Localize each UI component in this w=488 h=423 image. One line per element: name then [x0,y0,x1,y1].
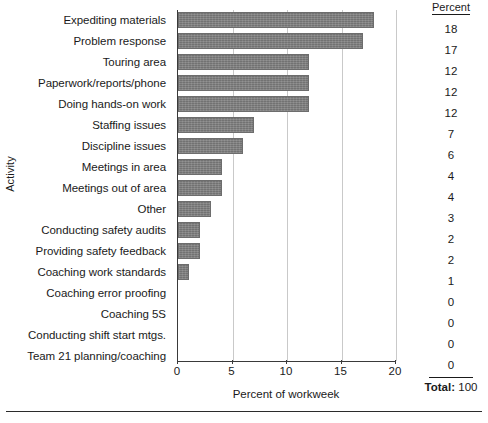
bar-row [178,157,395,178]
percent-value: 0 [424,334,478,355]
bar-row [178,241,395,262]
category-label: Touring area [14,52,172,73]
percent-value: 3 [424,208,478,229]
category-label: Discipline issues [14,136,172,157]
total-value: 100 [458,381,477,393]
percent-value: 1 [424,271,478,292]
total-divider [429,377,473,378]
percent-value: 6 [424,145,478,166]
category-label: Coaching work standards [14,262,172,283]
bar [178,201,211,217]
x-axis-title: Percent of workweek [177,388,395,400]
bar-row [178,199,395,220]
percent-value: 12 [424,61,478,82]
percent-table: Percent 1817121212764432210000 Total: 10… [424,0,478,393]
bar-row [178,10,395,31]
bar-row [178,115,395,136]
bar-row [178,136,395,157]
category-label: Paperwork/reports/phone [14,73,172,94]
x-tick-label: 15 [334,365,347,377]
category-label: Conducting shift start mtgs. [14,325,172,346]
bar-row [178,52,395,73]
bar [178,243,200,259]
gridline [396,10,397,361]
percent-value: 0 [424,355,478,376]
total-label: Total: [425,381,455,393]
percent-table-values: 1817121212764432210000 [424,19,478,376]
bar [178,12,374,28]
percent-table-header: Percent [424,0,478,14]
bar-row [178,94,395,115]
bar [178,75,309,91]
category-label: Other [14,199,172,220]
x-tick-mark [286,360,287,364]
category-label-column: Expediting materialsProblem responseTour… [14,10,172,367]
category-label: Staffing issues [14,115,172,136]
bar [178,159,222,175]
percent-value: 0 [424,313,478,334]
x-tick-mark [395,360,396,364]
category-label: Team 21 planning/coaching [14,346,172,367]
percent-header-label: Percent [432,1,470,15]
bar [178,117,254,133]
x-tick-mark [341,360,342,364]
bar-row [178,220,395,241]
bar-row [178,31,395,52]
category-label: Meetings in area [14,157,172,178]
percent-value: 2 [424,250,478,271]
category-label: Expediting materials [14,10,172,31]
bottom-divider [6,411,482,412]
x-tick-label: 10 [280,365,293,377]
x-tick-label: 20 [389,365,402,377]
percent-value: 17 [424,40,478,61]
total-row: Total: 100 [424,381,478,393]
plot-area [177,10,395,362]
bar-row [178,262,395,283]
x-tick-label: 0 [174,365,180,377]
x-tick-mark [177,360,178,364]
bar-row [178,73,395,94]
category-label: Coaching error proofing [14,283,172,304]
category-label: Problem response [14,31,172,52]
bar-row [178,304,395,325]
x-tick-label: 5 [228,365,234,377]
bar [178,222,200,238]
bar-row [178,283,395,304]
percent-value: 18 [424,19,478,40]
x-axis-ticks: 05101520 [177,364,395,380]
bar-series [178,10,395,361]
percent-value: 7 [424,124,478,145]
bar [178,33,363,49]
percent-value: 2 [424,229,478,250]
percent-value: 0 [424,292,478,313]
percent-value: 4 [424,187,478,208]
bar [178,96,309,112]
bar-row [178,178,395,199]
category-label: Coaching 5S [14,304,172,325]
bar [178,54,309,70]
category-label: Conducting safety audits [14,220,172,241]
x-tick-mark [232,360,233,364]
percent-value: 12 [424,82,478,103]
bar [178,264,189,280]
bar [178,180,222,196]
percent-value: 4 [424,166,478,187]
bar-row [178,325,395,346]
bar-chart-figure: Activity Expediting materialsProblem res… [0,0,488,423]
category-label: Doing hands-on work [14,94,172,115]
bar [178,138,243,154]
percent-value: 12 [424,103,478,124]
category-label: Providing safety feedback [14,241,172,262]
category-label: Meetings out of area [14,178,172,199]
